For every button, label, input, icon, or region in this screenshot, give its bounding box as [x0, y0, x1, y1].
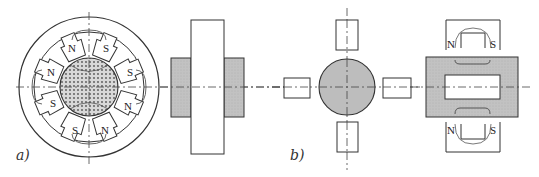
- panel-b: N S N S b): [272, 8, 530, 170]
- panel-label-a: a): [16, 147, 30, 163]
- magnet-top-s: S: [490, 38, 496, 50]
- magnet-right: [383, 78, 411, 98]
- pole-label: S: [103, 42, 109, 54]
- motor-diagram: N S S N N S S N a): [0, 0, 539, 177]
- pole-label: N: [124, 100, 132, 112]
- pole-label: N: [68, 42, 76, 54]
- panel-label-b: b): [290, 147, 304, 163]
- magnet-left: [284, 78, 310, 98]
- panel-a: N S S N N S S N a): [16, 12, 290, 166]
- side-view-rotor-hub: [171, 58, 191, 117]
- magnet-top-n: N: [447, 38, 455, 50]
- magnet-bottom: [337, 122, 358, 152]
- magnet-bottom-s: S: [490, 124, 496, 136]
- pole-label: N: [101, 124, 109, 136]
- pole-label: S: [72, 124, 78, 136]
- pole-label: N: [47, 66, 55, 78]
- side-view-rotor-hub: [224, 58, 244, 117]
- magnet-bottom-n: N: [447, 124, 455, 136]
- centerlines-a: [16, 12, 290, 166]
- side-view-b: N S N S: [410, 20, 530, 152]
- pole-label: S: [127, 66, 133, 78]
- pole-label: S: [50, 97, 56, 109]
